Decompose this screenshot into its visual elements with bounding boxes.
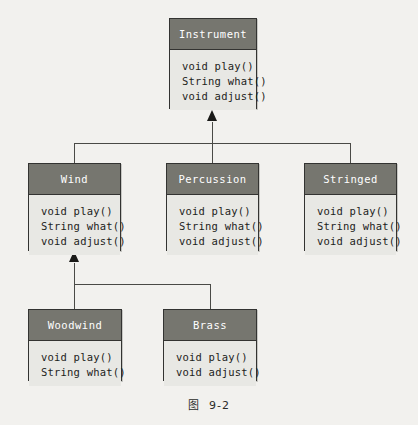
class-box-percussion[interactable]: Percussion void play() String what() voi… bbox=[166, 163, 259, 251]
class-members-woodwind: void play() String what() bbox=[29, 341, 121, 386]
uml-class-diagram: Instrument void play() String what() voi… bbox=[0, 0, 418, 425]
class-box-instrument[interactable]: Instrument void play() String what() voi… bbox=[169, 18, 257, 109]
class-name-percussion: Percussion bbox=[167, 164, 258, 195]
figure-caption-number: 9-2 bbox=[209, 399, 230, 412]
method-item: void adjust() bbox=[179, 234, 258, 249]
method-item: void adjust() bbox=[182, 89, 256, 104]
class-members-instrument: void play() String what() void adjust() bbox=[170, 50, 256, 110]
method-item: void play() bbox=[176, 350, 256, 365]
method-item: void adjust() bbox=[317, 234, 396, 249]
class-members-percussion: void play() String what() void adjust() bbox=[167, 195, 258, 255]
connector-bus-level3 bbox=[74, 284, 210, 285]
figure-caption-label: 图 bbox=[188, 399, 200, 412]
connector-drop-wind bbox=[74, 143, 75, 163]
arrowhead-to-instrument bbox=[207, 110, 217, 121]
class-members-brass: void play() void adjust() bbox=[164, 341, 256, 386]
connector-instrument-stem bbox=[212, 122, 213, 144]
method-item: void play() bbox=[317, 204, 396, 219]
method-item: void adjust() bbox=[176, 365, 256, 380]
connector-wind-stem bbox=[74, 263, 75, 285]
class-box-wind[interactable]: Wind void play() String what() void adju… bbox=[28, 163, 121, 251]
method-item: void play() bbox=[182, 59, 256, 74]
method-item: void adjust() bbox=[41, 234, 120, 249]
method-item: String what() bbox=[179, 219, 258, 234]
figure-caption: 图9-2 bbox=[0, 396, 418, 412]
method-item: String what() bbox=[41, 365, 121, 380]
method-item: String what() bbox=[182, 74, 256, 89]
class-box-woodwind[interactable]: Woodwind void play() String what() bbox=[28, 309, 122, 381]
connector-drop-stringed bbox=[350, 143, 351, 163]
class-name-woodwind: Woodwind bbox=[29, 310, 121, 341]
class-box-stringed[interactable]: Stringed void play() String what() void … bbox=[304, 163, 397, 251]
method-item: String what() bbox=[41, 219, 120, 234]
class-name-wind: Wind bbox=[29, 164, 120, 195]
method-item: String what() bbox=[317, 219, 396, 234]
method-item: void play() bbox=[179, 204, 258, 219]
method-item: void play() bbox=[41, 350, 121, 365]
method-item: void play() bbox=[41, 204, 120, 219]
class-box-brass[interactable]: Brass void play() void adjust() bbox=[163, 309, 257, 381]
class-name-instrument: Instrument bbox=[170, 19, 256, 50]
connector-drop-woodwind bbox=[74, 284, 75, 309]
connector-drop-brass bbox=[210, 284, 211, 309]
connector-drop-percussion bbox=[212, 143, 213, 163]
class-name-brass: Brass bbox=[164, 310, 256, 341]
class-members-stringed: void play() String what() void adjust() bbox=[305, 195, 396, 255]
class-members-wind: void play() String what() void adjust() bbox=[29, 195, 120, 255]
class-name-stringed: Stringed bbox=[305, 164, 396, 195]
